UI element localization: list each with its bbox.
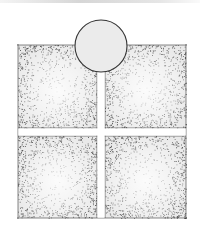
circle-group <box>75 20 127 72</box>
diagram-drawing <box>0 0 200 232</box>
panel-bottom-left <box>18 136 98 219</box>
panel-bottom-right <box>105 136 187 219</box>
circle <box>75 20 127 72</box>
